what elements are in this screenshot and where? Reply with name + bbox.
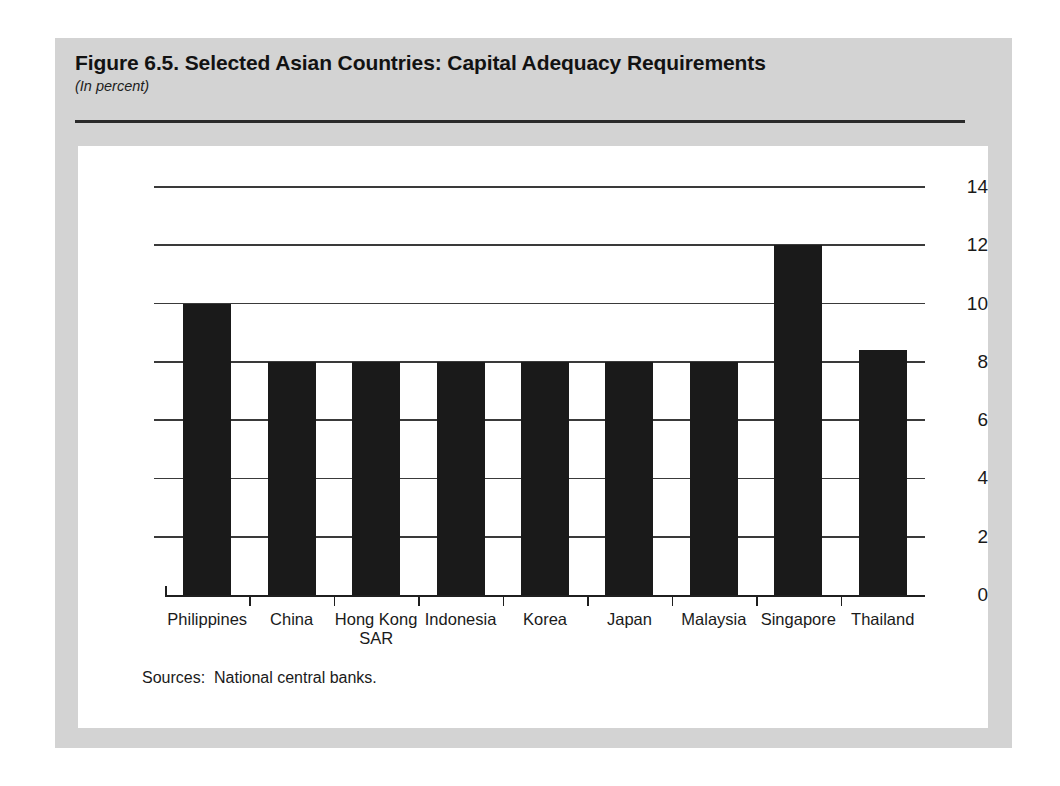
x-axis-tick [503,596,505,606]
y-axis-tick-label: 0 [922,584,988,606]
x-axis-label-line: Malaysia [666,610,762,629]
bar [352,362,400,595]
figure-page: Figure 6.5. Selected Asian Countries: Ca… [0,0,1060,786]
x-axis-tick-label: Japan [581,610,677,629]
x-axis-label-line: China [243,610,339,629]
y-axis-tick-label: 2 [922,526,988,548]
bar [774,245,822,595]
x-axis-tick [587,596,589,606]
x-axis-tick-label: Thailand [835,610,931,629]
title-divider [75,120,965,123]
bar [605,362,653,595]
x-axis-label-line: Korea [497,610,593,629]
y-axis-tick-label: 10 [922,293,988,315]
x-axis-tick-label: Singapore [750,610,846,629]
y-axis-tick [154,478,165,480]
y-axis-tick [154,361,165,363]
gridline [165,186,925,188]
x-axis-label-line: Hong Kong [328,610,424,629]
bar [437,362,485,595]
y-axis-tick [154,419,165,421]
page-title: Figure 6.5. Selected Asian Countries: Ca… [75,50,975,76]
bar [859,350,907,595]
figure-subtitle: (In percent) [75,77,975,96]
bar [521,362,569,595]
x-axis-label-line: Singapore [750,610,846,629]
y-axis-tick-label: 12 [922,234,988,256]
x-axis-tick-label: Indonesia [412,610,508,629]
x-axis-tick [841,596,843,606]
y-axis-tick [154,186,165,188]
bar [268,362,316,595]
x-axis-label-line: Philippines [159,610,255,629]
y-axis-tick-label: 8 [922,351,988,373]
x-axis-tick-label: Philippines [159,610,255,629]
chart-y-axis-line [165,586,167,597]
y-axis-tick-label: 6 [922,409,988,431]
x-axis-label-line: SAR [328,629,424,648]
x-axis-label-line: Japan [581,610,677,629]
y-axis-tick [154,244,165,246]
x-axis-tick-label: Malaysia [666,610,762,629]
y-axis-tick [154,303,165,305]
x-axis-tick [672,596,674,606]
chart-plot-panel: 02468101214 PhilippinesChinaHong KongSAR… [78,146,988,728]
y-axis-tick-label: 4 [922,467,988,489]
x-axis-tick-label: Korea [497,610,593,629]
y-axis-tick-label: 14 [922,176,988,198]
y-axis-tick [154,536,165,538]
x-axis-tick [418,596,420,606]
x-axis-tick [249,596,251,606]
x-axis-tick [334,596,336,606]
x-axis-label-line: Indonesia [412,610,508,629]
bar [183,304,231,595]
x-axis-tick-label: China [243,610,339,629]
source-note: Sources: National central banks. [142,669,377,687]
x-axis-tick-label: Hong KongSAR [328,610,424,648]
chart-x-axis-line [165,595,925,597]
figure-title-block: Figure 6.5. Selected Asian Countries: Ca… [75,50,975,96]
x-axis-label-line: Thailand [835,610,931,629]
bar [690,362,738,595]
x-axis-tick [756,596,758,606]
